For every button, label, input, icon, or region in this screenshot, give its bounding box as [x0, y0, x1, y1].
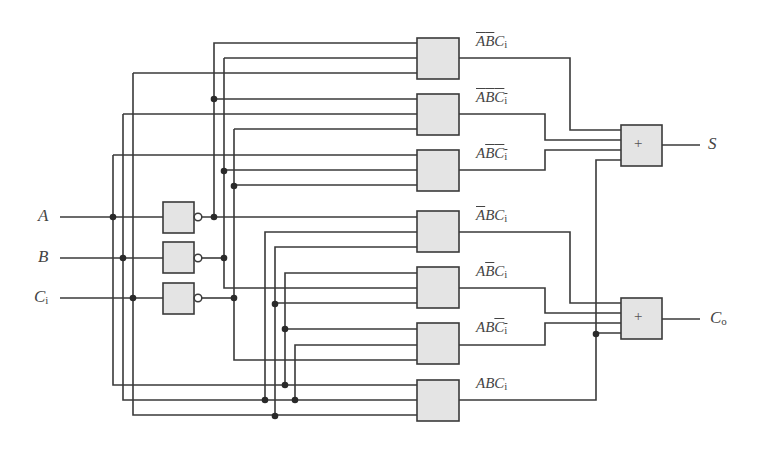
junction-dot — [110, 214, 117, 221]
not-gate-b — [163, 242, 194, 273]
wire-b-to-gate6 — [295, 345, 417, 400]
or-gates — [621, 125, 662, 339]
junction-dot — [593, 331, 600, 338]
term-label-5: ABCi — [476, 263, 507, 280]
term-label-7: ABCi — [476, 375, 507, 392]
junction-dot — [221, 168, 228, 175]
junction-dot — [272, 301, 279, 308]
and-gate-4 — [417, 211, 459, 252]
wire-abar-rail — [214, 43, 417, 217]
junction-dot — [292, 397, 299, 404]
junction-dot — [120, 255, 127, 262]
and-gate-6 — [417, 323, 459, 364]
wire-term7-to-s — [596, 160, 621, 333]
or-symbol-s: + — [634, 135, 642, 152]
circuit-diagram — [0, 0, 757, 457]
and-gates — [417, 38, 459, 421]
term-label-6: ABCi — [476, 319, 507, 336]
or-symbol-co: + — [634, 308, 642, 325]
wire-bbar-rail — [224, 58, 417, 288]
and-gate-1 — [417, 38, 459, 79]
input-label-ci: Ci — [34, 287, 48, 307]
output-label-s: S — [708, 134, 717, 154]
junction-dot — [272, 413, 279, 420]
wires — [60, 43, 700, 415]
term-label-4: ABCi — [476, 207, 507, 224]
inversion-bubble-icon — [194, 254, 202, 262]
wire-cibar-rail — [234, 129, 417, 360]
term-label-1: ABCi — [476, 33, 507, 50]
term-label-2: ABCi — [476, 89, 507, 106]
input-label-b: B — [38, 247, 48, 267]
wire-b-to-gate4 — [265, 232, 417, 400]
junction-dot — [211, 214, 218, 221]
junction-dot — [130, 295, 137, 302]
and-gate-7 — [417, 380, 459, 421]
not-gates — [163, 202, 202, 314]
junction-dot — [221, 255, 228, 262]
term-label-3: ABCi — [476, 145, 507, 162]
input-label-a: A — [38, 206, 48, 226]
and-gate-2 — [417, 94, 459, 135]
junction-dot — [211, 96, 218, 103]
output-label-co: Co — [710, 308, 727, 328]
wire-term2-to-s — [459, 114, 621, 140]
and-gate-5 — [417, 267, 459, 308]
inversion-bubble-icon — [194, 294, 202, 302]
junction-dot — [282, 326, 289, 333]
junction-dot — [231, 295, 238, 302]
junction-dot — [262, 397, 269, 404]
not-gate-a — [163, 202, 194, 233]
inversion-bubble-icon — [194, 213, 202, 221]
junction-dot — [231, 183, 238, 190]
not-gate-ci — [163, 283, 194, 314]
and-gate-3 — [417, 150, 459, 191]
junction-dot — [282, 382, 289, 389]
